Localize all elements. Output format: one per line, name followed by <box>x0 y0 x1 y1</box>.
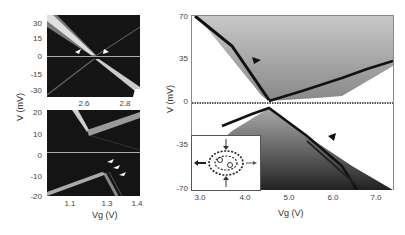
x-tick: 2.8 <box>115 99 135 108</box>
y-tick: 0 <box>20 52 42 61</box>
y-tick: 70 <box>166 12 188 21</box>
x-tick: 5.0 <box>279 193 299 202</box>
left-top-plot <box>47 15 140 97</box>
x-tick: 7.0 <box>366 193 386 202</box>
arrowhead-icon <box>328 133 336 141</box>
y-tick: 35 <box>166 54 188 63</box>
x-tick: 3.0 <box>190 193 210 202</box>
y-tick: 15 <box>20 34 42 43</box>
y-tick: -70 <box>166 184 188 193</box>
y-tick: -10 <box>20 172 42 181</box>
y-tick: 10 <box>20 130 42 139</box>
left-bottom-plot <box>47 110 140 196</box>
x-tick: 6.0 <box>323 193 343 202</box>
fullerene-molecule-icon <box>192 136 260 190</box>
y-tick: 20 <box>20 108 42 117</box>
y-tick: 30 <box>20 19 42 28</box>
y-tick: -20 <box>20 192 42 201</box>
y-tick: -35 <box>166 140 188 149</box>
left-top-heatmap <box>47 15 140 97</box>
right-x-axis-label: Vg (V) <box>278 208 304 218</box>
left-x-axis-label: Vg (V) <box>92 210 118 220</box>
left-bottom-heatmap <box>47 110 140 196</box>
y-tick: 0 <box>20 151 42 160</box>
x-tick: 2.6 <box>74 99 94 108</box>
y-tick: -15 <box>20 70 42 79</box>
left-y-axis-label: V (mV) <box>15 87 25 127</box>
x-tick: 1.1 <box>60 199 80 208</box>
x-tick: 4.0 <box>235 193 255 202</box>
right-y-axis-label: V (mV) <box>165 79 175 119</box>
fullerene-inset <box>191 135 261 191</box>
x-tick: 1.4 <box>127 199 147 208</box>
x-tick: 1.3 <box>97 199 117 208</box>
